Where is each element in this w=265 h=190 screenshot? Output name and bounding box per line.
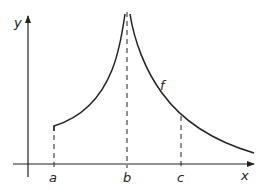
x-axis-label: x	[240, 168, 249, 183]
function-label: f	[160, 78, 167, 93]
curve-right-branch	[130, 14, 254, 153]
function-graph: y x f a b c	[0, 0, 265, 190]
point-label-b: b	[123, 170, 131, 185]
point-label-c: c	[177, 170, 184, 185]
y-axis-label: y	[13, 15, 22, 30]
point-label-a: a	[49, 170, 57, 185]
curve-left-branch	[54, 14, 125, 131]
